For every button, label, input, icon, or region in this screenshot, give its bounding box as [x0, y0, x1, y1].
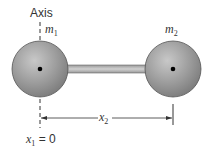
mass-2-label: m2 — [165, 22, 178, 38]
connecting-rod — [66, 65, 146, 73]
axis-label: Axis — [30, 6, 53, 20]
arrowhead-left-icon — [41, 116, 47, 120]
distance-x2-label: x2 — [98, 110, 108, 126]
mass-2-center-dot — [171, 67, 176, 72]
arrowhead-right-icon — [166, 116, 172, 120]
mass-1-label: m1 — [45, 22, 58, 38]
mass-1-center-dot — [38, 67, 43, 72]
dumbbell-diagram: Axis m1 m2 x2 x1 = 0 — [0, 0, 209, 155]
origin-x1-label: x1 = 0 — [25, 132, 56, 148]
